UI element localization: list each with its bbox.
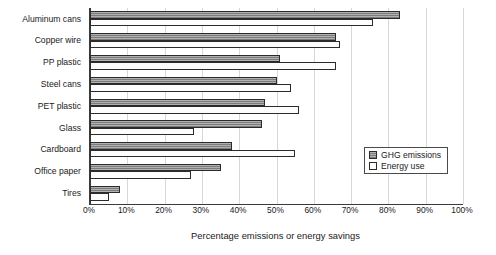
bar-group: [90, 52, 463, 74]
x-axis-tick-labels: 0%10%20%30%40%50%60%70%80%90%100%: [89, 206, 462, 222]
recycling-savings-bar-chart: Aluminum cansCopper wirePP plasticSteel …: [0, 0, 496, 255]
bar-ghg-emissions: [90, 99, 265, 107]
bar-ghg-emissions: [90, 142, 232, 150]
category-axis: Aluminum cansCopper wirePP plasticSteel …: [0, 8, 86, 204]
legend-item: GHG emissions: [369, 151, 441, 160]
legend-swatch-ghg: [369, 151, 377, 159]
x-tick-label: 50%: [267, 206, 284, 214]
category-label: Copper wire: [0, 30, 86, 52]
bar-ghg-emissions: [90, 77, 277, 85]
bar-energy-use: [90, 150, 295, 158]
bar-energy-use: [90, 171, 191, 179]
x-tick-label: 90%: [416, 206, 433, 214]
chart-legend: GHG emissionsEnergy use: [364, 147, 448, 174]
x-tick-label: 20%: [155, 206, 172, 214]
bar-group: [90, 30, 463, 52]
bar-energy-use: [90, 41, 340, 49]
bar-ghg-emissions: [90, 120, 262, 128]
bar-group: [90, 73, 463, 95]
bar-energy-use: [90, 106, 299, 114]
category-label: Cardboard: [0, 139, 86, 161]
bar-ghg-emissions: [90, 164, 221, 172]
x-tick-label: 30%: [193, 206, 210, 214]
bar-energy-use: [90, 62, 336, 70]
bar-ghg-emissions: [90, 186, 120, 194]
category-label: Glass: [0, 117, 86, 139]
bar-group: [90, 182, 463, 204]
bar-energy-use: [90, 19, 373, 27]
x-tick-label: 0%: [83, 206, 95, 214]
bar-ghg-emissions: [90, 11, 400, 19]
x-tick-label: 40%: [230, 206, 247, 214]
bar-energy-use: [90, 193, 109, 201]
category-label: Aluminum cans: [0, 8, 86, 30]
bar-groups: [90, 8, 463, 204]
legend-label: Energy use: [381, 162, 424, 171]
gridline: [463, 8, 464, 204]
x-tick-label: 100%: [451, 206, 472, 214]
legend-item: Energy use: [369, 162, 441, 171]
category-label: PP plastic: [0, 52, 86, 74]
bar-ghg-emissions: [90, 55, 280, 63]
x-tick-label: 10%: [118, 206, 135, 214]
x-tick-label: 80%: [379, 206, 396, 214]
bar-group: [90, 95, 463, 117]
bar-group: [90, 117, 463, 139]
x-tick-label: 60%: [304, 206, 321, 214]
category-label: Tires: [0, 182, 86, 204]
x-tick-label: 70%: [342, 206, 359, 214]
category-label: Steel cans: [0, 73, 86, 95]
legend-swatch-energy: [369, 162, 377, 170]
bar-ghg-emissions: [90, 33, 336, 41]
bar-energy-use: [90, 128, 194, 136]
bar-group: [90, 8, 463, 30]
category-label: Office paper: [0, 160, 86, 182]
category-label: PET plastic: [0, 95, 86, 117]
plot-area: [89, 8, 463, 204]
legend-label: GHG emissions: [381, 151, 441, 160]
bar-energy-use: [90, 84, 291, 92]
x-axis-title: Percentage emissions or energy savings: [89, 230, 462, 241]
